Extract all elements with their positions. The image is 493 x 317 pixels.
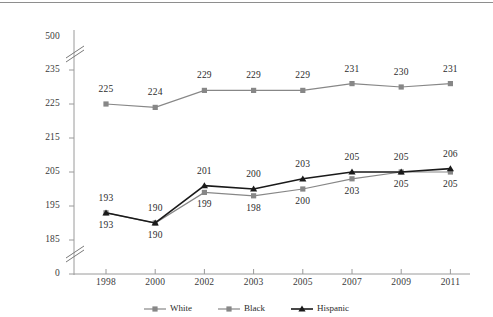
data-point-label: 225 — [91, 84, 121, 94]
x-tick-label: 2007 — [332, 277, 372, 287]
data-point-marker — [251, 88, 256, 93]
data-point-marker — [349, 176, 354, 181]
data-point-label: 229 — [189, 70, 219, 80]
x-tick-label: 2011 — [430, 277, 470, 287]
y-tick-label: 225 — [26, 98, 60, 108]
y-tick-label: 185 — [26, 234, 60, 244]
x-tick-label: 2009 — [381, 277, 421, 287]
data-point-label: 200 — [288, 196, 318, 206]
legend-square-icon — [144, 304, 166, 314]
data-point-label: 229 — [288, 70, 318, 80]
series-line — [106, 169, 450, 223]
data-point-label: 206 — [435, 149, 465, 159]
x-tick-label: 2003 — [234, 277, 274, 287]
data-point-label: 230 — [386, 67, 416, 77]
data-point-marker — [300, 186, 305, 191]
data-point-label: 190 — [140, 230, 170, 240]
chart-legend: WhiteBlackHispanic — [0, 303, 493, 317]
y-tick-label: 195 — [26, 200, 60, 210]
legend-square-icon — [218, 304, 240, 314]
y-tick-label: 235 — [26, 64, 60, 74]
data-point-label: 201 — [189, 166, 219, 176]
data-point-label: 203 — [337, 186, 367, 196]
y-tick-label: 205 — [26, 166, 60, 176]
legend-label: White — [170, 303, 192, 314]
data-point-label: 205 — [337, 152, 367, 162]
x-tick-label: 2002 — [184, 277, 224, 287]
data-point-marker — [349, 81, 354, 86]
y-tick-marks — [69, 70, 74, 274]
data-point-label: 193 — [91, 220, 121, 230]
data-point-label: 229 — [239, 70, 269, 80]
data-point-label: 231 — [337, 64, 367, 74]
legend-triangle-icon — [291, 304, 313, 314]
data-point-label: 200 — [239, 169, 269, 179]
x-tick-label: 2000 — [135, 277, 175, 287]
line-chart: 5002352252152051951850 19982000200220032… — [0, 0, 493, 317]
x-tick-marks — [106, 269, 450, 274]
data-point-label: 231 — [435, 64, 465, 74]
data-point-marker — [202, 88, 207, 93]
data-point-label: 205 — [386, 179, 416, 189]
legend-item[interactable]: White — [144, 303, 192, 314]
data-point-label: 224 — [140, 87, 170, 97]
data-point-label: 205 — [386, 152, 416, 162]
y-tick-label: 215 — [26, 132, 60, 142]
data-point-marker — [153, 105, 158, 110]
data-point-label: 190 — [140, 203, 170, 213]
data-point-marker — [202, 190, 207, 195]
x-tick-label: 1998 — [86, 277, 126, 287]
data-point-label: 193 — [91, 193, 121, 203]
chart-canvas — [0, 0, 493, 317]
y-tick-label: 0 — [26, 268, 60, 278]
axis-break-marks — [66, 46, 84, 262]
legend-label: Hispanic — [317, 303, 349, 314]
data-point-marker — [300, 88, 305, 93]
legend-item[interactable]: Hispanic — [291, 303, 349, 314]
data-point-label: 198 — [239, 203, 269, 213]
y-tick-label: 500 — [26, 31, 60, 41]
data-point-marker — [103, 101, 108, 106]
data-point-marker — [399, 84, 404, 89]
legend-item[interactable]: Black — [218, 303, 265, 314]
data-point-marker — [251, 193, 256, 198]
x-tick-label: 2005 — [283, 277, 323, 287]
data-point-marker — [448, 81, 453, 86]
data-point-label: 203 — [288, 159, 318, 169]
legend-label: Black — [244, 303, 265, 314]
data-point-label: 205 — [435, 179, 465, 189]
data-point-label: 199 — [189, 199, 219, 209]
